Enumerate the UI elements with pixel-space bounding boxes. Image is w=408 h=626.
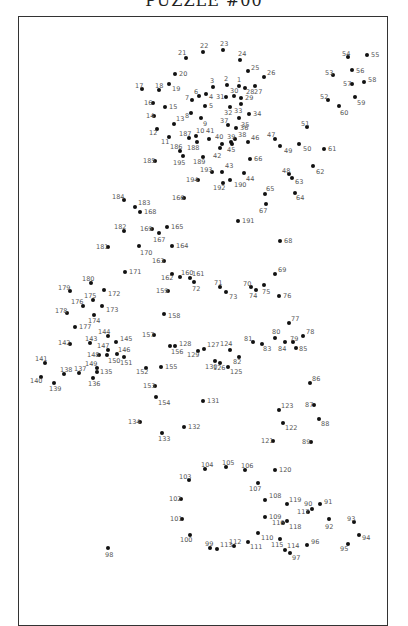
dot-number-label: 80 — [272, 329, 280, 336]
dot-point — [262, 283, 266, 287]
dot-number-label: 2 — [224, 76, 228, 83]
dot-number-label: 84 — [278, 346, 286, 353]
dot-point — [239, 102, 243, 106]
dot-number-label: 95 — [340, 546, 348, 553]
dot-point — [167, 82, 171, 86]
dot-number-label: 119 — [289, 497, 301, 504]
dot-number-label: 113 — [220, 542, 232, 549]
dot-number-label: 45 — [227, 147, 235, 154]
dot-number-label: 42 — [213, 153, 221, 160]
dot-point — [248, 157, 252, 161]
dot-number-label: 67 — [259, 208, 267, 215]
dot-number-label: 168 — [144, 209, 156, 216]
dot-point — [297, 142, 301, 146]
dot-point — [207, 137, 211, 141]
dot-number-label: 139 — [49, 386, 61, 393]
dot-number-label: 87 — [305, 402, 313, 409]
dot-number-label: 192 — [213, 185, 225, 192]
dot-point — [277, 294, 281, 298]
dot-point — [322, 147, 326, 151]
dot-point — [294, 346, 298, 350]
dot-number-label: 37 — [220, 118, 228, 125]
dot-point — [100, 304, 104, 308]
dot-number-label: 150 — [108, 358, 120, 365]
dot-number-label: 177 — [79, 324, 91, 331]
dot-number-label: 163 — [152, 258, 164, 265]
dot-point — [290, 176, 294, 180]
dot-number-label: 66 — [254, 156, 262, 163]
dot-number-label: 144 — [98, 329, 110, 336]
dot-point — [365, 53, 369, 57]
dot-point — [204, 92, 208, 96]
dot-number-label: 60 — [340, 110, 348, 117]
dot-number-label: 14 — [146, 113, 154, 120]
dot-point — [264, 202, 268, 206]
dot-number-label: 193 — [200, 167, 212, 174]
dot-point — [263, 515, 267, 519]
dot-number-label: 182 — [114, 224, 126, 231]
dot-number-label: 10 — [196, 128, 204, 135]
dot-number-label: 75 — [262, 289, 270, 296]
dot-number-label: 46 — [251, 135, 259, 142]
dot-number-label: 132 — [188, 424, 200, 431]
dot-number-label: 127 — [207, 342, 219, 349]
dot-number-label: 1 — [237, 77, 241, 84]
dot-number-label: 15 — [169, 104, 177, 111]
puzzle-title: PUZZLE #00 — [0, 0, 408, 10]
dot-number-label: 43 — [225, 163, 233, 170]
dot-point — [225, 83, 229, 87]
dot-number-label: 186 — [170, 144, 182, 151]
dot-point — [173, 72, 177, 76]
dot-number-label: 30 — [230, 88, 238, 95]
dot-number-label: 154 — [158, 400, 170, 407]
dot-number-label: 185 — [143, 158, 155, 165]
dot-number-label: 167 — [153, 237, 165, 244]
dot-number-label: 52 — [320, 94, 328, 101]
dot-point — [246, 69, 250, 73]
dot-point — [357, 533, 361, 537]
dot-number-label: 90 — [304, 501, 312, 508]
dot-point — [137, 244, 141, 248]
dot-number-label: 86 — [312, 376, 320, 383]
dot-number-label: 18 — [155, 83, 163, 90]
dot-number-label: 176 — [71, 299, 83, 306]
dot-number-label: 108 — [269, 493, 281, 500]
dot-point — [138, 210, 142, 214]
dot-point — [221, 48, 225, 52]
dot-point — [224, 95, 228, 99]
dot-number-label: 148 — [87, 352, 99, 359]
dot-point — [337, 104, 341, 108]
dot-number-label: 175 — [84, 293, 96, 300]
dot-point — [157, 231, 161, 235]
dot-number-label: 44 — [246, 176, 254, 183]
dot-number-label: 56 — [356, 68, 364, 75]
dot-point — [201, 399, 205, 403]
dot-number-label: 26 — [267, 70, 275, 77]
dot-number-label: 74 — [249, 293, 257, 300]
dot-number-label: 161 — [192, 271, 204, 278]
dot-number-label: 179 — [58, 285, 70, 292]
dot-number-label: 19 — [172, 86, 180, 93]
dot-number-label: 82 — [233, 359, 241, 366]
dot-number-label: 31 — [216, 94, 224, 101]
dot-number-label: 94 — [362, 535, 370, 542]
dot-point — [215, 547, 219, 551]
dot-point — [228, 178, 232, 182]
dot-point — [301, 334, 305, 338]
dot-point — [73, 325, 77, 329]
dot-number-label: 7 — [185, 95, 189, 102]
dot-number-label: 23 — [220, 41, 228, 48]
dot-number-label: 55 — [371, 52, 379, 59]
dot-number-label: 129 — [187, 352, 199, 359]
dot-point — [238, 58, 242, 62]
dot-point — [190, 98, 194, 102]
dot-point — [362, 80, 366, 84]
dot-number-label: 158 — [168, 313, 180, 320]
dot-number-label: 159 — [156, 288, 168, 295]
dot-number-label: 99 — [205, 541, 213, 548]
dot-number-label: 4 — [209, 94, 213, 101]
dot-number-label: 91 — [324, 499, 332, 506]
dot-point — [234, 126, 238, 130]
dot-number-label: 47 — [267, 132, 275, 139]
dot-number-label: 103 — [179, 474, 191, 481]
